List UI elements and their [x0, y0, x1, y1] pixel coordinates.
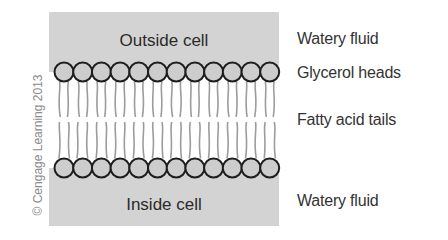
fatty-acid-tail	[115, 82, 116, 118]
fatty-acid-tail	[87, 122, 88, 159]
glycerol-head	[111, 159, 130, 178]
glycerol-head	[129, 63, 148, 82]
fatty-acid-tail	[143, 122, 144, 159]
fatty-acid-tail	[198, 82, 199, 118]
fatty-acid-tail	[152, 122, 153, 159]
fatty-acid-tail	[133, 122, 134, 159]
fatty-acid-tail	[255, 82, 256, 118]
fatty-acid-tail	[124, 82, 125, 118]
fatty-acid-tail	[115, 122, 116, 159]
glycerol-head	[185, 159, 204, 178]
fatty-acid-tail	[153, 82, 154, 118]
glycerol-head	[242, 63, 261, 82]
glycerol-head	[129, 159, 148, 178]
fatty-acid-tail	[274, 122, 275, 159]
fatty-acid-tail	[171, 122, 172, 159]
glycerol-head	[148, 159, 167, 178]
glycerol-head	[111, 63, 130, 82]
glycerol-head	[55, 63, 74, 82]
fatty-acid-tail	[142, 82, 143, 118]
fatty-acid-tail	[228, 82, 229, 118]
fatty-acid-tail	[265, 82, 266, 118]
glycerol-head	[148, 63, 167, 82]
glycerol-head	[260, 159, 279, 178]
copyright-notice: © Cengage Learning 2013	[31, 75, 45, 216]
glycerol-head	[167, 159, 186, 178]
fatty-acid-tail	[255, 122, 256, 159]
glycerol-head	[55, 159, 74, 178]
fatty-acid-tail	[227, 122, 228, 159]
glycerol-head	[260, 63, 279, 82]
fatty-acid-tail	[171, 82, 172, 118]
glycerol-head	[223, 159, 242, 178]
label-glycerol-heads: Glycerol heads	[297, 64, 401, 82]
glycerol-head	[73, 63, 92, 82]
fatty-acid-tail	[181, 122, 182, 159]
glycerol-head	[223, 63, 242, 82]
fatty-acid-tail	[162, 122, 163, 159]
fatty-acid-tail	[236, 82, 237, 118]
fatty-acid-tail	[264, 122, 265, 159]
label-watery-fluid-bottom: Watery fluid	[297, 192, 378, 210]
fatty-acid-tails-bottom	[59, 122, 276, 159]
fatty-acid-tail	[96, 122, 97, 159]
fatty-acid-tail	[105, 82, 106, 118]
glycerol-head	[185, 63, 204, 82]
fatty-acid-tail	[209, 82, 210, 118]
fatty-acid-tail	[218, 122, 219, 159]
glycerol-head	[92, 159, 111, 178]
glycerol-head	[242, 159, 261, 178]
fatty-acid-tail	[124, 122, 125, 159]
glycerol-head	[73, 159, 92, 178]
fatty-acid-tail	[59, 82, 60, 118]
glycerol-head	[204, 63, 223, 82]
fatty-acid-tail	[209, 122, 210, 159]
outside-cell-label: Outside cell	[120, 31, 209, 50]
fatty-acid-tail	[246, 82, 247, 118]
fatty-acid-tail	[189, 122, 190, 159]
fatty-acid-tail	[161, 82, 162, 118]
fatty-acid-tail	[59, 122, 60, 159]
glycerol-head	[167, 63, 186, 82]
fatty-acid-tail	[180, 82, 181, 118]
fatty-acid-tail	[77, 122, 78, 159]
label-watery-fluid-top: Watery fluid	[297, 30, 378, 48]
fatty-acid-tail	[273, 82, 274, 118]
fatty-acid-tail	[87, 82, 88, 118]
fatty-acid-tail	[106, 122, 107, 159]
inside-cell-label: Inside cell	[126, 195, 202, 214]
fatty-acid-tail	[68, 82, 69, 118]
fatty-acid-tail	[190, 82, 191, 118]
fatty-acid-tail	[68, 122, 69, 159]
glycerol-head	[92, 63, 111, 82]
fatty-acid-tail	[134, 82, 135, 118]
fatty-acid-tail	[97, 82, 98, 118]
fatty-acid-tail	[199, 122, 200, 159]
label-fatty-acid-tails: Fatty acid tails	[297, 111, 396, 129]
fatty-acid-tail	[237, 122, 238, 159]
fatty-acid-tail	[217, 82, 218, 118]
glycerol-head	[204, 159, 223, 178]
fatty-acid-tail	[78, 82, 79, 118]
fatty-acid-tails-top	[59, 82, 274, 118]
fatty-acid-tail	[246, 122, 247, 159]
